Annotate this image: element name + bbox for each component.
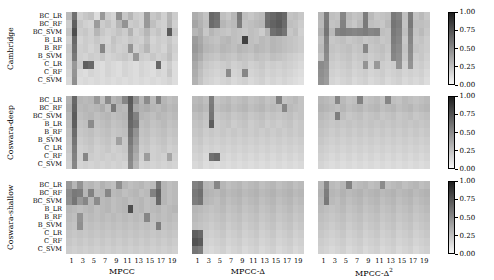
x-axis-title: MPCC — [66, 267, 178, 276]
x-tick-label: 1 — [192, 257, 203, 265]
heatmap-cell — [298, 96, 304, 104]
y-tick-label: C_SVM — [18, 77, 62, 84]
heatmap-cell — [424, 197, 430, 205]
heatmap-cell — [172, 12, 178, 20]
heatmap-cell — [298, 20, 304, 28]
heatmap-cell — [298, 197, 304, 205]
heatmap-cell — [298, 189, 304, 197]
heatmap-cell — [298, 205, 304, 213]
y-tick-label: B_RF — [18, 214, 62, 221]
heatmap-cell — [172, 238, 178, 246]
y-tick-label: BC_RF — [18, 190, 62, 197]
x-tick-label: 9 — [363, 257, 374, 265]
heatmap-cell — [172, 61, 178, 69]
heatmap-cell — [172, 153, 178, 161]
x-tick-label: 5 — [88, 257, 99, 265]
heatmap-figure: CambridgeCoswara-deepCoswara-shallowBC_L… — [0, 0, 494, 280]
heatmap-panel — [192, 12, 304, 85]
heatmap-cell — [298, 61, 304, 69]
heatmap-cell — [424, 189, 430, 197]
heatmap-cell — [424, 181, 430, 189]
heatmap-cell — [172, 205, 178, 213]
heatmap-panel — [318, 12, 430, 85]
y-tick-label: BC_SVM — [18, 113, 62, 120]
x-tick-label: 17 — [282, 257, 293, 265]
colorbar-tick-label: 0.00 — [458, 250, 476, 258]
y-tick-label: BC_SVM — [18, 198, 62, 205]
heatmap-cell — [172, 20, 178, 28]
heatmap-cell — [424, 128, 430, 136]
colorbar-tick: 1.00 — [455, 8, 475, 16]
colorbar-tick-label: 0.00 — [458, 81, 476, 89]
colorbar-tick: 0.75 — [455, 110, 475, 118]
colorbar-tick-label: 1.00 — [458, 8, 476, 16]
colorbar: 1.000.750.500.250.00 — [448, 12, 488, 85]
x-tick-label: 11 — [248, 257, 259, 265]
heatmap-cell — [172, 213, 178, 221]
heatmap-cell — [424, 61, 430, 69]
x-axis-title: MPCC-Δ2 — [318, 267, 430, 278]
x-tick-label: 5 — [214, 257, 225, 265]
colorbar-tick-label: 0.25 — [458, 147, 476, 155]
x-tick-label: 11 — [122, 257, 133, 265]
heatmap-cell — [424, 222, 430, 230]
y-tick-label: C_SVM — [18, 246, 62, 253]
row-group-label-coswara-shallow: Coswara-shallow — [6, 181, 15, 254]
heatmap-cell — [424, 161, 430, 169]
colorbar: 1.000.750.500.250.00 — [448, 181, 488, 254]
x-tick-label: 19 — [419, 257, 430, 265]
colorbar-tick: 1.00 — [455, 92, 475, 100]
colorbar-tick-label: 1.00 — [458, 177, 476, 185]
heatmap-cell — [172, 69, 178, 77]
x-tick-label: 13 — [259, 257, 270, 265]
colorbar-tick: 0.25 — [455, 147, 475, 155]
heatmap-cell — [172, 104, 178, 112]
colorbar-tick: 0.75 — [455, 195, 475, 203]
colorbar-tick-label: 1.00 — [458, 92, 476, 100]
x-tick-label: 15 — [396, 257, 407, 265]
heatmap-cell — [424, 153, 430, 161]
colorbar: 1.000.750.500.250.00 — [448, 96, 488, 169]
heatmap-cell — [298, 181, 304, 189]
x-tick-label: 5 — [340, 257, 351, 265]
x-tick-label: 1 — [318, 257, 329, 265]
colorbar-tick: 0.50 — [455, 45, 475, 53]
heatmap-panel — [318, 96, 430, 169]
x-axis-tick-labels: 135791113151719 — [192, 257, 304, 265]
heatmap-cell — [298, 120, 304, 128]
heatmap-cell — [298, 36, 304, 44]
heatmap-cell — [172, 222, 178, 230]
heatmap-panel — [66, 12, 178, 85]
heatmap-cell — [298, 53, 304, 61]
heatmap-cell — [424, 137, 430, 145]
colorbar-tick-label: 0.25 — [458, 63, 476, 71]
y-tick-label: B_RF — [18, 129, 62, 136]
heatmap-cell — [298, 230, 304, 238]
heatmap-cell — [424, 205, 430, 213]
heatmap-cell — [424, 230, 430, 238]
colorbar-gradient — [448, 181, 455, 254]
x-tick-label: 3 — [77, 257, 88, 265]
heatmap-cell — [172, 77, 178, 85]
heatmap-cell — [424, 246, 430, 254]
heatmap-cell — [172, 246, 178, 254]
heatmap-cell — [424, 20, 430, 28]
heatmap-cell — [298, 12, 304, 20]
y-tick-label: BC_LR — [18, 182, 62, 189]
x-tick-label: 13 — [385, 257, 396, 265]
y-tick-label: B_RF — [18, 45, 62, 52]
heatmap-cell — [424, 36, 430, 44]
heatmap-cell — [424, 69, 430, 77]
y-tick-label: BC_SVM — [18, 29, 62, 36]
x-tick-label: 15 — [144, 257, 155, 265]
x-tick-label: 19 — [167, 257, 178, 265]
colorbar-tick-label: 0.25 — [458, 232, 476, 240]
colorbar-tick-label: 0.50 — [458, 45, 476, 53]
y-tick-label: B_LR — [18, 206, 62, 213]
heatmap-cell — [172, 96, 178, 104]
heatmap-cell — [424, 12, 430, 20]
heatmap-cell — [298, 161, 304, 169]
heatmap-cell — [424, 104, 430, 112]
colorbar-tick-label: 0.75 — [458, 195, 476, 203]
colorbar-tick: 0.75 — [455, 26, 475, 34]
